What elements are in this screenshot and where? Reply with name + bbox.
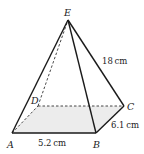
vertex-label-A: A (6, 139, 14, 150)
measurement-AB: 5.2 cm (38, 138, 66, 148)
measurement-BC: 6.1 cm (111, 120, 139, 130)
measurement-EC: 18 cm (102, 56, 127, 66)
pyramid-diagram: E A B C D 5.2 cm 6.1 cm 18 cm (0, 0, 144, 154)
edge-DE-hidden (38, 20, 68, 106)
base-face (12, 106, 124, 133)
vertex-label-B: B (92, 139, 100, 150)
vertex-label-D: D (30, 95, 39, 106)
vertex-label-C: C (127, 101, 135, 112)
vertex-label-E: E (63, 7, 71, 18)
